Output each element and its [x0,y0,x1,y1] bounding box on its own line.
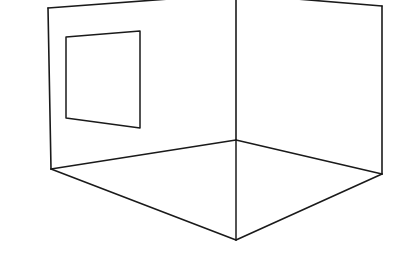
drawing-canvas [0,0,415,266]
room-perspective-drawing [0,0,415,266]
